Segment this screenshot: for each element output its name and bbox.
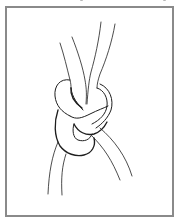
upper-strand-right-inner — [87, 22, 101, 104]
knot-loop-upper-right-outer — [96, 84, 112, 128]
lower-strand-left-outer — [48, 142, 58, 194]
knot-loop-upper-left — [55, 80, 83, 116]
lower-strand-right-inner — [92, 136, 120, 180]
figure-canvas — [0, 0, 179, 223]
upper-strand-left-inner — [72, 37, 86, 104]
lower-strand-left-inner — [62, 154, 66, 195]
knot-illustration — [0, 0, 179, 223]
knot-loop-upper-right — [92, 88, 107, 124]
knot-loop-lower-left — [55, 110, 94, 156]
knot-loop-upper-left-inner — [71, 88, 82, 108]
